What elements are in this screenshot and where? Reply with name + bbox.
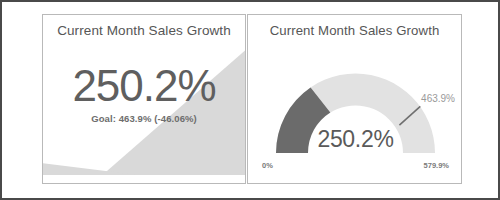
kpi-card-title: Current Month Sales Growth — [43, 23, 245, 38]
kpi-card[interactable]: Current Month Sales Growth 250.2% Goal: … — [42, 14, 246, 184]
dashboard-canvas: Current Month Sales Growth 250.2% Goal: … — [4, 4, 500, 200]
gauge-target-label: 463.9% — [421, 93, 455, 104]
gauge-card[interactable]: Current Month Sales Growth 250.2% 0% 579… — [247, 14, 462, 184]
kpi-value-wrap: 250.2% — [43, 62, 245, 110]
gauge-center-value: 250.2% — [258, 126, 453, 153]
gauge-card-title: Current Month Sales Growth — [248, 23, 461, 38]
gauge-axis-max-label: 579.9% — [424, 161, 449, 170]
gauge-axis-min-label: 0% — [262, 161, 273, 170]
kpi-value: 250.2% — [72, 62, 215, 110]
kpi-goal-text: Goal: 463.9% (-46.06%) — [43, 113, 245, 124]
screenshot-frame: Current Month Sales Growth 250.2% Goal: … — [0, 0, 500, 200]
